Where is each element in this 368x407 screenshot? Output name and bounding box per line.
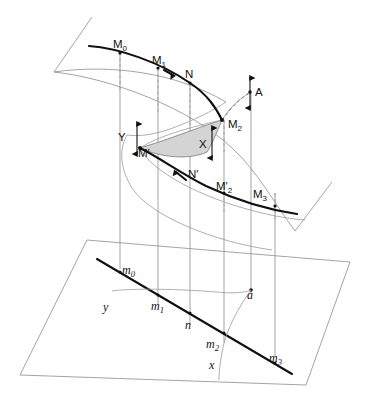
figure-canvas: M0 M1 N M2 A X Y M′ N′ M′2 M3 m0 y m1 n … [0, 0, 368, 407]
upper-surface-outline [54, 17, 332, 231]
label-n: n [185, 318, 191, 332]
label-m3: m3 [269, 351, 282, 367]
label-y: y [102, 300, 109, 314]
label-A: A [255, 86, 263, 98]
label-X: X [199, 138, 207, 150]
label-Nprime: N′ [188, 168, 198, 180]
base-plane-outline [20, 240, 350, 385]
label-x: x [208, 358, 215, 372]
jump-M2-to-A [222, 93, 250, 120]
label-Y: Y [118, 131, 126, 143]
base-labels: m0 y m1 n a m2 x m3 [102, 263, 282, 372]
label-m0: m0 [122, 263, 136, 279]
label-Mprime: M′ [138, 147, 150, 159]
bifurcation-set-curves [112, 289, 251, 380]
label-a: a [247, 288, 253, 302]
label-m1: m1 [151, 299, 164, 315]
label-m2: m2 [206, 337, 220, 353]
shaded-bifurcation-region [140, 120, 222, 157]
label-M2: M2 [228, 118, 243, 133]
label-N: N [185, 68, 193, 80]
label-M3: M3 [253, 188, 268, 203]
label-M1: M1 [152, 54, 167, 69]
catastrophe-diagram: M0 M1 N M2 A X Y M′ N′ M′2 M3 m0 y m1 n … [0, 0, 368, 407]
